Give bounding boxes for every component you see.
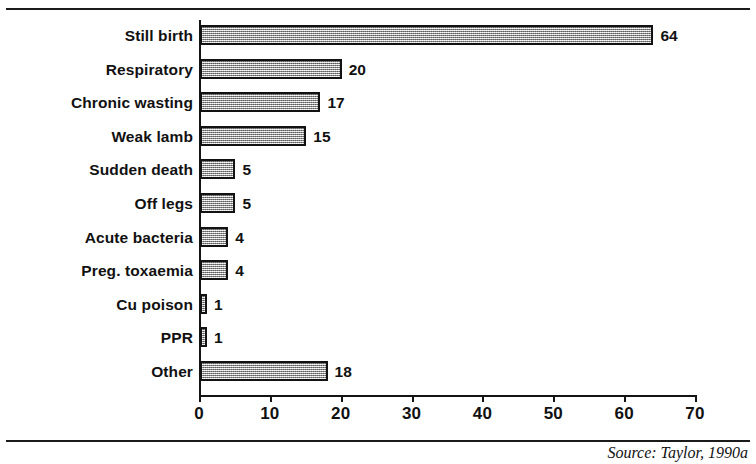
bar-row: Respiratory20 xyxy=(0,59,756,81)
value-label-cu-poison: 1 xyxy=(214,295,223,315)
x-tick-50 xyxy=(553,395,555,402)
chart-plot-area: 010203040506070 Still birth64Respiratory… xyxy=(0,0,756,400)
bar-row: Chronic wasting17 xyxy=(0,92,756,114)
category-label-respiratory: Respiratory xyxy=(0,60,193,80)
x-tick-label-60: 60 xyxy=(594,404,654,424)
category-label-ppr: PPR xyxy=(0,328,193,348)
value-label-weak-lamb: 15 xyxy=(313,127,330,147)
bar-weak-lamb xyxy=(200,126,306,146)
bottom-divider-rule xyxy=(6,440,750,442)
bar-row: Preg. toxaemia4 xyxy=(0,260,756,282)
x-tick-label-10: 10 xyxy=(240,404,300,424)
value-label-acute-bacteria: 4 xyxy=(235,228,244,248)
bar-off-legs xyxy=(200,193,235,213)
x-tick-label-70: 70 xyxy=(665,404,725,424)
x-tick-label-20: 20 xyxy=(311,404,371,424)
x-tick-40 xyxy=(482,395,484,402)
x-tick-70 xyxy=(695,395,697,402)
bar-row: Other18 xyxy=(0,361,756,383)
figure-container: 010203040506070 Still birth64Respiratory… xyxy=(0,0,756,464)
bar-row: Cu poison1 xyxy=(0,294,756,316)
x-tick-10 xyxy=(270,395,272,402)
bar-row: Weak lamb15 xyxy=(0,126,756,148)
bar-ppr xyxy=(200,327,207,347)
x-axis-line xyxy=(199,395,695,397)
category-label-weak-lamb: Weak lamb xyxy=(0,127,193,147)
bar-preg-toxaemia xyxy=(200,260,228,280)
x-tick-label-30: 30 xyxy=(382,404,442,424)
category-label-off-legs: Off legs xyxy=(0,194,193,214)
category-label-acute-bacteria: Acute bacteria xyxy=(0,228,193,248)
value-label-still-birth: 64 xyxy=(660,26,677,46)
bar-row: Acute bacteria4 xyxy=(0,227,756,249)
category-label-cu-poison: Cu poison xyxy=(0,295,193,315)
bar-acute-bacteria xyxy=(200,227,228,247)
value-label-sudden-death: 5 xyxy=(242,160,251,180)
category-label-sudden-death: Sudden death xyxy=(0,160,193,180)
bar-sudden-death xyxy=(200,159,235,179)
bar-respiratory xyxy=(200,59,342,79)
bar-chronic-wasting xyxy=(200,92,320,112)
bar-cu-poison xyxy=(200,294,207,314)
category-label-preg-toxaemia: Preg. toxaemia xyxy=(0,261,193,281)
bar-row: Off legs5 xyxy=(0,193,756,215)
bar-row: PPR1 xyxy=(0,327,756,349)
value-label-chronic-wasting: 17 xyxy=(327,93,344,113)
value-label-respiratory: 20 xyxy=(349,60,366,80)
value-label-other: 18 xyxy=(335,362,352,382)
x-tick-label-50: 50 xyxy=(523,404,583,424)
bar-other xyxy=(200,361,328,381)
x-tick-20 xyxy=(341,395,343,402)
x-tick-label-0: 0 xyxy=(169,404,229,424)
source-note: Source: Taylor, 1990a xyxy=(607,444,748,462)
value-label-off-legs: 5 xyxy=(242,194,251,214)
value-label-preg-toxaemia: 4 xyxy=(235,261,244,281)
x-tick-label-40: 40 xyxy=(452,404,512,424)
category-label-chronic-wasting: Chronic wasting xyxy=(0,93,193,113)
bar-still-birth xyxy=(200,25,653,45)
x-tick-30 xyxy=(412,395,414,402)
category-label-still-birth: Still birth xyxy=(0,26,193,46)
bar-row: Sudden death5 xyxy=(0,159,756,181)
x-tick-0 xyxy=(199,395,201,402)
category-label-other: Other xyxy=(0,362,193,382)
bar-row: Still birth64 xyxy=(0,25,756,47)
value-label-ppr: 1 xyxy=(214,328,223,348)
x-tick-60 xyxy=(624,395,626,402)
